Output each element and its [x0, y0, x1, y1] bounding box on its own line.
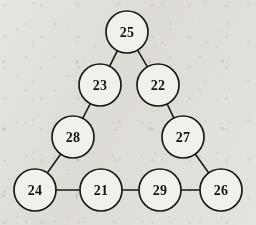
graph-node-27[interactable]: 27: [162, 116, 204, 158]
graph-node-23[interactable]: 23: [79, 64, 121, 106]
graph-node-26[interactable]: 26: [200, 169, 242, 211]
graph-node-25[interactable]: 25: [106, 11, 148, 53]
graph-edge-23-28: [83, 104, 91, 119]
node-label-23: 23: [93, 78, 107, 93]
triangle-graph-figure: 252322282724212926: [0, 0, 256, 225]
node-label-26: 26: [214, 183, 228, 198]
node-label-29: 29: [153, 183, 167, 198]
graph-edge-25-23: [110, 51, 118, 67]
node-label-27: 27: [176, 130, 190, 145]
node-label-25: 25: [120, 25, 134, 40]
node-label-21: 21: [94, 183, 108, 198]
graph-edge-27-26: [195, 154, 209, 173]
graph-edge-28-24: [47, 154, 61, 173]
graph-node-29[interactable]: 29: [139, 169, 181, 211]
graph-canvas: 252322282724212926: [0, 0, 256, 225]
node-label-24: 24: [28, 183, 42, 198]
node-layer: 252322282724212926: [14, 11, 242, 211]
graph-node-28[interactable]: 28: [52, 116, 94, 158]
node-label-28: 28: [66, 130, 80, 145]
graph-edge-25-22: [138, 50, 148, 67]
graph-node-24[interactable]: 24: [14, 169, 56, 211]
graph-edge-22-27: [167, 104, 174, 118]
graph-node-22[interactable]: 22: [137, 64, 179, 106]
graph-node-21[interactable]: 21: [80, 169, 122, 211]
node-label-22: 22: [151, 78, 165, 93]
